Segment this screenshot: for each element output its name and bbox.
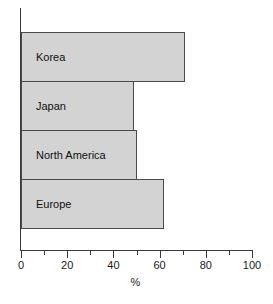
x-tick-minor bbox=[90, 251, 91, 255]
bar-korea bbox=[21, 32, 185, 82]
bar-chart: KoreaJapanNorth AmericaEurope 0204060801… bbox=[0, 0, 273, 304]
x-tick-major bbox=[21, 251, 22, 258]
x-tick-minor bbox=[44, 251, 45, 255]
bar-europe bbox=[21, 179, 164, 229]
x-tick-minor bbox=[183, 251, 184, 255]
x-tick-major bbox=[206, 251, 207, 258]
x-tick-label: 100 bbox=[232, 259, 272, 271]
bar-north-america bbox=[21, 130, 137, 180]
x-tick-major bbox=[113, 251, 114, 258]
x-axis-title-label: % bbox=[131, 276, 141, 288]
plot-area: KoreaJapanNorth AmericaEurope bbox=[21, 32, 252, 228]
x-axis-title: % bbox=[0, 276, 273, 288]
bar-japan bbox=[21, 81, 134, 131]
x-tick-minor bbox=[229, 251, 230, 255]
x-tick-major bbox=[160, 251, 161, 258]
x-tick-label: 80 bbox=[186, 259, 226, 271]
x-tick-label: 20 bbox=[47, 259, 87, 271]
x-tick-major bbox=[67, 251, 68, 258]
x-tick-label: 40 bbox=[93, 259, 133, 271]
x-tick-major bbox=[252, 251, 253, 258]
x-tick-minor bbox=[137, 251, 138, 255]
x-tick-label: 60 bbox=[140, 259, 180, 271]
x-tick-label: 0 bbox=[1, 259, 41, 271]
